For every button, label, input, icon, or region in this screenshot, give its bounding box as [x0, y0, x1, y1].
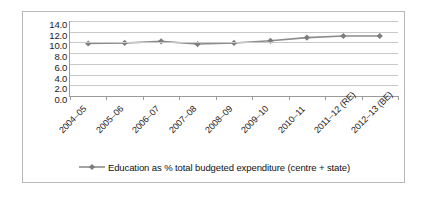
gridline	[70, 42, 398, 43]
x-axis-tick-label: 2004–05	[57, 104, 88, 135]
chart-frame: 14.012.010.08.06.04.02.00.0 2004–052005–…	[22, 11, 405, 183]
data-point-marker	[304, 35, 310, 41]
gridline	[70, 64, 398, 65]
gridline	[70, 75, 398, 76]
y-axis-tick-label: 0.0	[31, 95, 67, 105]
gridline	[70, 21, 398, 22]
x-axis-tick-label: 2009–10	[239, 104, 270, 135]
data-point-marker	[377, 33, 383, 39]
x-axis-tick-label: 2007–08	[167, 104, 198, 135]
x-axis-tick-label: 2006–07	[130, 104, 161, 135]
gridline	[70, 53, 398, 54]
gridline	[70, 85, 398, 86]
y-axis-tick-label: 4.0	[31, 74, 67, 84]
legend-item-education-percent: Education as % total budgeted expenditur…	[79, 162, 350, 173]
y-axis: 14.012.010.08.06.04.02.00.0	[31, 16, 67, 96]
x-axis: 2004–052005–062006–072007–082008–092009–…	[69, 98, 409, 158]
y-axis-tick-label: 14.0	[31, 20, 67, 30]
chart-plot-wrapper: 14.012.010.08.06.04.02.00.0 2004–052005–…	[23, 12, 406, 184]
y-axis-tick-label: 12.0	[31, 31, 67, 41]
y-axis-tick-label: 10.0	[31, 41, 67, 51]
x-axis-tick-label: 2010–11	[276, 104, 307, 135]
y-axis-tick-label: 2.0	[31, 84, 67, 94]
chart-legend: Education as % total budgeted expenditur…	[23, 157, 406, 177]
y-axis-tick-label: 8.0	[31, 52, 67, 62]
legend-line-marker-icon	[79, 162, 105, 172]
x-axis-tick-label: 2008–09	[203, 104, 234, 135]
data-point-marker	[340, 33, 346, 39]
x-axis-tick-label: 2005–06	[94, 104, 125, 135]
gridline	[70, 32, 398, 33]
legend-label: Education as % total budgeted expenditur…	[108, 162, 350, 173]
y-axis-tick-label: 6.0	[31, 63, 67, 73]
plot-area	[69, 21, 398, 97]
data-point-marker	[85, 40, 91, 46]
data-point-marker	[158, 38, 164, 44]
